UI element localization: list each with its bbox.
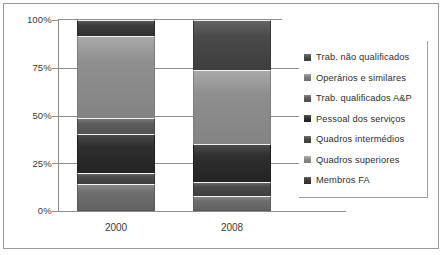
y-tick-label-25: 25% [0,158,52,169]
legend-item[interactable]: Pessoal dos serviços [304,109,432,130]
y-axis-labels: 100% 75% 50% 25% 0% [0,0,52,255]
bar-segment[interactable] [193,196,271,211]
legend-item[interactable]: Operários e similares [304,68,432,89]
legend-item-label: Pessoal dos serviços [316,114,405,124]
bar-segment[interactable] [193,144,271,182]
legend-item[interactable]: Quadros superiores [304,150,432,171]
legend-item-label: Operários e similares [316,73,406,83]
bar-segment[interactable] [193,182,271,195]
bar-segment[interactable] [77,134,155,173]
x-axis-label-2008: 2008 [172,222,292,233]
x-axis-label-2000: 2000 [56,222,176,233]
legend-item-label: Quadros superiores [316,155,399,165]
legend-item-label: Quadros intermédios [316,134,404,144]
bar-segment[interactable] [77,20,155,36]
legend-swatch-icon [304,54,311,61]
legend-item-label: Membros FA [316,175,370,185]
legend-item-label: Trab. não qualificados [316,52,409,62]
legend-item[interactable]: Membros FA [304,170,432,191]
y-tick-label-75: 75% [0,62,52,73]
legend-item-label: Trab. qualificados A&P [316,93,412,103]
bar-segment[interactable] [77,118,155,133]
legend: Trab. não qualificadosOperários e simila… [304,47,432,191]
legend-swatch-icon [304,74,311,81]
y-tick-label-0: 0% [0,205,52,216]
legend-item[interactable]: Trab. qualificados A&P [304,88,432,109]
legend-item[interactable]: Quadros intermédios [304,129,432,150]
bar-segment[interactable] [77,173,155,184]
legend-swatch-icon [304,136,311,143]
chart-root: 100% 75% 50% 25% 0% 2000 2008 Trab. não … [0,0,444,255]
stacked-bar-2000[interactable] [77,20,155,211]
bar-segment[interactable] [77,36,155,118]
bar-segment[interactable] [193,20,271,70]
legend-swatch-icon [304,95,311,102]
bar-segment[interactable] [77,184,155,211]
legend-swatch-icon [304,156,311,163]
legend-swatch-icon [304,177,311,184]
stacked-bar-2008[interactable] [193,20,271,211]
bar-segment[interactable] [193,70,271,144]
legend-item[interactable]: Trab. não qualificados [304,47,432,68]
legend-swatch-icon [304,115,311,122]
y-tick-label-100: 100% [0,14,52,25]
y-tick-label-50: 50% [0,110,52,121]
axis-baseline [58,211,346,212]
